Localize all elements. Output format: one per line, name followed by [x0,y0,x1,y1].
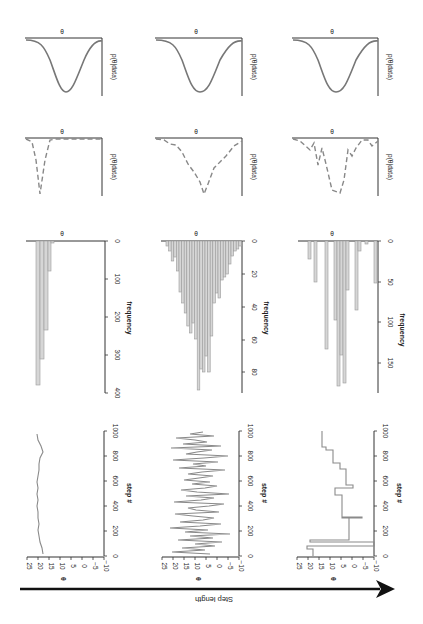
svg-text:0: 0 [247,554,254,558]
svg-text:10: 10 [59,562,66,570]
svg-text:0: 0 [216,564,223,568]
theta-label: θ [194,128,198,135]
svg-text:15: 15 [48,562,55,570]
svg-text:300: 300 [114,350,121,361]
step-label: step # [125,483,133,503]
svg-text:25: 25 [296,562,303,570]
step-label: step # [395,483,403,503]
posterior-label: p(θ|data) [250,154,258,180]
sampled-posterior-col2: θ p(θ|data) [155,128,258,196]
svg-text:5: 5 [70,564,77,568]
theta-axis-label: θ [60,577,67,581]
histogram-col1: 0 100 200 300 400 θ frequency [26,230,133,399]
posterior-label: p(θ|data) [250,54,258,80]
svg-text:400: 400 [114,388,121,399]
svg-text:10: 10 [194,562,201,570]
svg-text:5: 5 [205,564,212,568]
theta-axis-label: θ [330,577,337,581]
svg-text:800: 800 [112,451,119,462]
svg-text:600: 600 [382,476,389,487]
theta-label: θ [60,128,64,135]
svg-text:20: 20 [251,270,258,278]
svg-text:0: 0 [351,564,358,568]
svg-text:200: 200 [382,526,389,537]
trace-col3: 25 20 15 10 5 0 −5 −10 0 200 400 600 800… [296,424,403,581]
histogram-col3: 0 50 100 150 θ frequency [298,230,406,393]
svg-text:0: 0 [382,554,389,558]
theta-label: θ [60,230,64,237]
frequency-label: frequency [262,301,270,335]
svg-text:25: 25 [161,562,168,570]
svg-text:−10: −10 [238,560,245,571]
true-posterior-col2: θ p(θ|data) [155,28,258,96]
step-label: step # [260,483,268,503]
theta-label: θ [330,28,334,35]
svg-text:−10: −10 [103,560,110,571]
theta-label: θ [194,230,198,237]
svg-text:5: 5 [340,564,347,568]
svg-text:150: 150 [387,358,394,369]
svg-text:−5: −5 [362,562,369,570]
svg-text:800: 800 [382,451,389,462]
svg-text:800: 800 [247,451,254,462]
svg-text:0: 0 [81,564,88,568]
svg-text:400: 400 [247,501,254,512]
svg-text:20: 20 [307,562,314,570]
true-posterior-col1: θ p(θ|data) [25,28,118,96]
step-length-arrow: Step length [20,580,395,604]
svg-text:0: 0 [114,239,121,243]
svg-text:400: 400 [382,501,389,512]
posterior-label: p(θ|data) [110,154,118,180]
svg-text:600: 600 [247,476,254,487]
svg-text:50: 50 [387,278,394,286]
svg-text:15: 15 [183,562,190,570]
frequency-label: frequency [125,301,133,335]
theta-label: θ [60,28,64,35]
histogram-col2: 0 20 40 60 80 θ frequency [161,230,270,393]
svg-text:80: 80 [251,368,258,376]
theta-label: θ [330,230,334,237]
svg-text:60: 60 [251,336,258,344]
svg-text:400: 400 [112,501,119,512]
svg-text:200: 200 [114,312,121,323]
svg-text:20: 20 [37,562,44,570]
frequency-label: frequency [398,313,406,347]
trace-col1: 25 20 15 10 5 0 −5 −10 0 200 400 600 800… [26,424,133,581]
svg-text:−10: −10 [373,560,380,571]
svg-text:−5: −5 [92,562,99,570]
svg-text:1000: 1000 [247,424,254,439]
svg-text:25: 25 [26,562,33,570]
posterior-label: p(θ|data) [110,54,118,80]
svg-text:20: 20 [172,562,179,570]
svg-text:200: 200 [112,526,119,537]
posterior-label: p(θ|data) [386,154,394,180]
step-length-label: Step length [195,595,233,604]
svg-text:10: 10 [329,562,336,570]
svg-text:40: 40 [251,303,258,311]
posterior-label: p(θ|data) [386,54,394,80]
svg-text:−5: −5 [227,562,234,570]
svg-text:100: 100 [114,274,121,285]
mcmc-step-length-figure: θ p(θ|data) θ p(θ|data) θ p(θ|data) θ p(… [0,0,423,624]
theta-axis-label: θ [195,577,202,581]
theta-label: θ [194,28,198,35]
svg-text:100: 100 [387,317,394,328]
true-posterior-col3: θ p(θ|data) [292,28,394,96]
svg-text:600: 600 [112,476,119,487]
svg-text:0: 0 [387,239,394,243]
svg-text:15: 15 [318,562,325,570]
svg-text:0: 0 [251,239,258,243]
sampled-posterior-col1: θ p(θ|data) [25,128,118,196]
theta-label: θ [330,128,334,135]
svg-text:0: 0 [112,554,119,558]
svg-text:200: 200 [247,526,254,537]
svg-text:1000: 1000 [382,424,389,439]
trace-col2: 25 20 15 10 5 0 −5 −10 0 200 400 600 800… [161,424,268,581]
sampled-posterior-col3: θ p(θ|data) [292,128,394,196]
svg-text:1000: 1000 [112,424,119,439]
